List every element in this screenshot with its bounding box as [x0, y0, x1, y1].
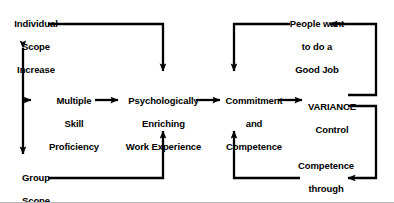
node-variance-control: VARIANCE Control — [294, 89, 370, 147]
node-psych-enriching-line-1: Psychologically — [106, 95, 221, 107]
node-psychologically-enriching-work-experience: Psychologically Enriching Work Experienc… — [106, 83, 221, 164]
node-individual-scope-line-3: Increase — [0, 64, 72, 76]
node-individual-scope-line-1: Individual — [0, 18, 72, 30]
node-multiple-skill-line-1: Multiple — [36, 95, 112, 107]
node-commitment-line-2: and — [213, 118, 295, 130]
node-people-want-line-3: Good Job — [274, 64, 360, 76]
node-individual-scope-increase: Individual Scope Increase — [0, 6, 72, 87]
node-psych-enriching-line-2: Enriching — [106, 118, 221, 130]
node-group-scope-increase: Group Scope Increase — [0, 160, 72, 203]
node-competence-through-learning: Competence through Learning — [286, 148, 366, 203]
node-commitment-line-3: Competence — [213, 141, 295, 153]
node-competence-learn-line-2: through — [286, 183, 366, 195]
node-individual-scope-line-2: Scope — [0, 41, 72, 53]
node-psych-enriching-line-3: Work Experience — [106, 141, 221, 153]
node-variance-control-line-2: Control — [294, 124, 370, 136]
node-multiple-skill-proficiency: Multiple Skill Proficiency — [36, 83, 112, 164]
diagram-canvas: Individual Scope Increase Group Scope In… — [0, 0, 394, 203]
node-multiple-skill-line-3: Proficiency — [36, 141, 112, 153]
node-variance-control-line-1: VARIANCE — [294, 101, 370, 113]
node-group-scope-line-1: Group — [0, 172, 72, 184]
node-competence-learn-line-1: Competence — [286, 160, 366, 172]
node-multiple-skill-line-2: Skill — [36, 118, 112, 130]
node-people-want-to-do-a-good-job: People want to do a Good Job — [274, 6, 360, 87]
node-commitment-line-1: Commitment — [213, 95, 295, 107]
node-group-scope-line-2: Scope — [0, 195, 72, 203]
node-people-want-line-2: to do a — [274, 41, 360, 53]
node-commitment-and-competence: Commitment and Competence — [213, 83, 295, 164]
node-people-want-line-1: People want — [274, 18, 360, 30]
